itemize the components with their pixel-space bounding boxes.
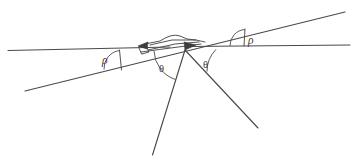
label-theta-right: θ (203, 59, 208, 70)
angle-arc-theta-left (154, 51, 176, 80)
label-rho-left: ρ (101, 54, 108, 67)
geometry-diagram: ρ ρ θ θ (0, 0, 353, 162)
tick-mark-rho-right (244, 29, 245, 46)
label-rho-right: ρ (247, 34, 254, 47)
diagram-canvas: ρ ρ θ θ (0, 0, 353, 162)
ray-lower-right (185, 50, 258, 128)
rising-transversal-line (25, 12, 345, 91)
label-theta-left: θ (159, 63, 164, 74)
angle-arc-theta-right (207, 50, 216, 72)
ray-lower-left (153, 50, 186, 155)
